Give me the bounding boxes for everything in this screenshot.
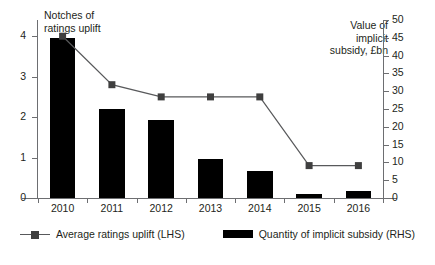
legend-item-line: Average ratings uplift (LHS) xyxy=(20,228,185,240)
left-tick xyxy=(32,198,37,199)
right-tick xyxy=(384,109,389,110)
line-path xyxy=(63,36,359,165)
x-axis-line xyxy=(22,198,397,199)
line-marker-2014 xyxy=(256,93,263,100)
right-tick-label: 25 xyxy=(392,103,404,114)
right-tick-label: 5 xyxy=(392,174,398,185)
right-tick-label: 35 xyxy=(392,67,404,78)
left-tick-label: 2 xyxy=(20,111,26,122)
right-tick xyxy=(384,127,389,128)
left-tick-label: 1 xyxy=(20,152,26,163)
right-tick xyxy=(384,180,389,181)
right-tick-label: 15 xyxy=(392,139,404,150)
bar-swatch-icon xyxy=(223,230,253,238)
right-tick xyxy=(384,198,389,199)
right-tick xyxy=(384,38,389,39)
legend-label-line: Average ratings uplift (LHS) xyxy=(56,228,185,240)
left-tick-label: 0 xyxy=(20,192,26,203)
right-tick-label: 40 xyxy=(392,50,404,61)
right-tick xyxy=(384,56,389,57)
right-tick xyxy=(384,73,389,74)
line-marker-2015 xyxy=(306,162,313,169)
left-tick-label: 4 xyxy=(20,30,26,41)
chart-container: Notches of ratings uplift Value of impli… xyxy=(0,0,435,265)
right-tick xyxy=(384,162,389,163)
right-tick xyxy=(384,145,389,146)
line-marker-2012 xyxy=(158,93,165,100)
left-tick xyxy=(32,117,37,118)
left-tick xyxy=(32,36,37,37)
line-series-layer xyxy=(38,20,383,198)
left-tick-label: 3 xyxy=(20,71,26,82)
chart-legend: Average ratings uplift (LHS) Quantity of… xyxy=(0,228,435,240)
left-tick xyxy=(32,158,37,159)
right-tick-label: 45 xyxy=(392,32,404,43)
legend-label-bar: Quantity of implicit subsidy (RHS) xyxy=(259,228,415,240)
line-marker-2013 xyxy=(207,93,214,100)
line-marker-2016 xyxy=(355,162,362,169)
right-tick-label: 20 xyxy=(392,121,404,132)
line-marker-2011 xyxy=(108,81,115,88)
right-tick-label: 50 xyxy=(392,14,404,25)
right-tick xyxy=(384,91,389,92)
right-tick-label: 0 xyxy=(392,192,398,203)
left-tick xyxy=(32,77,37,78)
right-tick-label: 10 xyxy=(392,156,404,167)
line-marker-2010 xyxy=(59,33,66,40)
right-tick-label: 30 xyxy=(392,85,404,96)
right-tick xyxy=(384,20,389,21)
x-tick-label: 2016 xyxy=(328,203,388,214)
line-marker-swatch-icon xyxy=(20,230,50,239)
legend-item-bar: Quantity of implicit subsidy (RHS) xyxy=(223,228,415,240)
